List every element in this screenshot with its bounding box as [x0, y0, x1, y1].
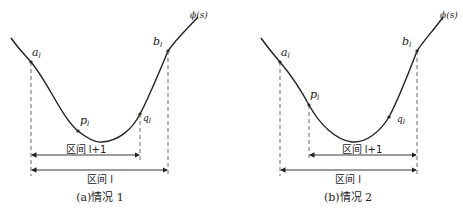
point-p [76, 129, 79, 132]
label-phi: ϕ(s) [440, 10, 458, 20]
interval-inner-label: 区间 l+1 [342, 143, 383, 155]
label-q: ql [143, 113, 151, 125]
curve-phi [11, 17, 198, 142]
label-phi: ϕ(s) [190, 10, 208, 20]
label-a: al [281, 46, 290, 60]
label-p: pl [310, 88, 319, 102]
curve-phi [261, 17, 443, 142]
interval-outer-label: 区间 l [335, 173, 361, 185]
label-p: pl [80, 114, 89, 128]
label-b: bl [402, 35, 411, 49]
label-a: al [32, 46, 41, 60]
panel-a: al pl ql bl ϕ(s) 区间 l+1 区间 l (a)情况 1 [11, 10, 208, 204]
caption-b: (b)情况 2 [324, 191, 372, 204]
interval-outer-label: 区间 l [87, 173, 113, 185]
label-b: bl [153, 35, 162, 49]
panel-b: al pl ql bl ϕ(s) 区间 l+1 区间 l (b)情况 2 [261, 10, 458, 204]
interval-inner-label: 区间 l+1 [66, 143, 107, 155]
label-q: ql [397, 114, 405, 126]
diagram-canvas: al pl ql bl ϕ(s) 区间 l+1 区间 l (a)情况 1 al … [0, 0, 463, 211]
caption-a: (a)情况 1 [76, 191, 124, 204]
point-q [387, 115, 390, 118]
